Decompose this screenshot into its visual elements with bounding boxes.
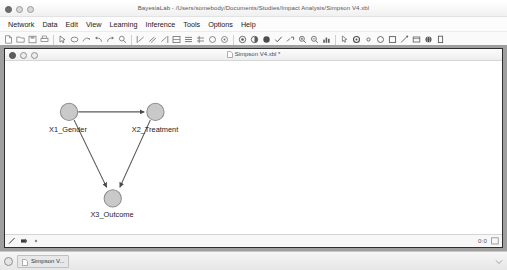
start-icon[interactable] xyxy=(4,257,13,266)
application-window: BayesiaLab - /Users/somebody/Documents/S… xyxy=(0,3,507,248)
menubar: Network Data Edit View Learning Inferenc… xyxy=(0,17,507,32)
undo-icon[interactable] xyxy=(93,34,104,45)
new-document-icon[interactable] xyxy=(3,34,14,45)
taskbar-item-simpson[interactable]: Simpson V... xyxy=(17,255,69,268)
document-title-wrap: Simpson V4.xbl * xyxy=(5,51,502,58)
edge-tool-icon[interactable] xyxy=(399,34,410,45)
toolbar-group-layout xyxy=(135,34,230,45)
application-title: BayesiaLab - /Users/somebody/Documents/S… xyxy=(0,5,507,11)
toolbar-separator xyxy=(233,35,234,45)
menu-item-edit[interactable]: Edit xyxy=(62,20,82,29)
globe-icon[interactable] xyxy=(423,34,434,45)
graph-canvas[interactable]: X1_Gender X2_Treatment X3_Outcome xyxy=(5,61,502,234)
open-folder-icon[interactable] xyxy=(15,34,26,45)
monitor-icon[interactable] xyxy=(249,34,260,45)
document-titlebar: Simpson V4.xbl * xyxy=(5,49,502,61)
toolbar-separator xyxy=(53,35,54,45)
open-circle-icon[interactable] xyxy=(375,34,386,45)
table-icon[interactable] xyxy=(411,34,422,45)
node-label-x2-treatment[interactable]: X2_Treatment xyxy=(132,125,179,134)
toolbar-separator xyxy=(335,35,336,45)
distribute-vertical-icon[interactable] xyxy=(183,34,194,45)
document-title: Simpson V4.xbl * xyxy=(235,51,281,57)
save-disk-icon[interactable] xyxy=(27,34,38,45)
arc-tool-icon[interactable] xyxy=(8,237,16,245)
menu-item-help[interactable]: Help xyxy=(237,20,260,29)
validate-check-icon[interactable] xyxy=(273,34,284,45)
node-label-x1-gender[interactable]: X1_Gender xyxy=(49,125,87,134)
menu-item-options[interactable]: Options xyxy=(204,20,237,29)
statusbar-right: 0:0 xyxy=(478,237,499,245)
select-arrow-icon[interactable] xyxy=(57,34,68,45)
menu-item-learning[interactable]: Learning xyxy=(105,20,141,29)
panel-icon[interactable] xyxy=(435,34,446,45)
screen-root: BayesiaLab - /Users/somebody/Documents/S… xyxy=(0,0,507,270)
toolbar-group-file xyxy=(3,34,50,45)
toolbar-separator xyxy=(131,35,132,45)
menu-item-view[interactable]: View xyxy=(82,20,105,29)
node-hit-x3-outcome[interactable] xyxy=(103,188,120,205)
document-statusbar: 0:0 xyxy=(5,234,502,247)
arc-arrow-icon[interactable] xyxy=(81,34,92,45)
system-tray xyxy=(495,252,503,270)
info-dot-icon[interactable] xyxy=(32,237,40,245)
menu-item-data[interactable]: Data xyxy=(38,20,61,29)
cursor-pointer-icon[interactable] xyxy=(339,34,350,45)
document-icon xyxy=(227,51,233,58)
link-icon[interactable] xyxy=(285,34,296,45)
mdi-area: Simpson V4.xbl * xyxy=(0,45,507,251)
print-icon[interactable] xyxy=(39,34,50,45)
tray-icon[interactable] xyxy=(495,252,503,270)
menu-item-tools[interactable]: Tools xyxy=(179,20,204,29)
node-ellipse-icon[interactable] xyxy=(69,34,80,45)
menu-item-inference[interactable]: Inference xyxy=(141,20,179,29)
statusbar-tools xyxy=(8,237,40,245)
filled-circle-icon[interactable] xyxy=(261,34,272,45)
distribute-horizontal-icon[interactable] xyxy=(171,34,182,45)
align-left-icon[interactable] xyxy=(135,34,146,45)
align-right-icon[interactable] xyxy=(159,34,170,45)
taskbar-item-label: Simpson V... xyxy=(31,258,64,264)
toolbar-group-edit xyxy=(57,34,128,45)
align-center-icon[interactable] xyxy=(147,34,158,45)
status-coordinates: 0:0 xyxy=(478,238,487,244)
node-hit-x2-treatment[interactable] xyxy=(145,103,162,120)
toolbar-group-nodes xyxy=(339,34,446,45)
taskbar: Simpson V... xyxy=(0,251,507,270)
magnify-minus-icon[interactable] xyxy=(309,34,320,45)
document-window: Simpson V4.xbl * xyxy=(4,48,503,248)
toolbar-group-analysis xyxy=(237,34,332,45)
application-titlebar: BayesiaLab - /Users/somebody/Documents/S… xyxy=(0,3,507,17)
radial-layout-icon[interactable] xyxy=(219,34,230,45)
menu-item-network[interactable]: Network xyxy=(4,20,38,29)
node-label-x3-outcome[interactable]: X3_Outcome xyxy=(90,210,133,219)
magnify-plus-icon[interactable] xyxy=(297,34,308,45)
search-icon[interactable] xyxy=(117,34,128,45)
node-hit-x1-gender[interactable] xyxy=(60,103,77,120)
chart-bars-icon[interactable] xyxy=(321,34,332,45)
target-icon[interactable] xyxy=(237,34,248,45)
grid-layout-icon[interactable] xyxy=(195,34,206,45)
small-circle-icon[interactable] xyxy=(363,34,374,45)
document-icon xyxy=(22,252,28,270)
square-node-icon[interactable] xyxy=(387,34,398,45)
redo-icon[interactable] xyxy=(105,34,116,45)
gear-icon[interactable] xyxy=(351,34,362,45)
resize-grip-icon[interactable] xyxy=(491,237,499,245)
bayesian-network-graph xyxy=(5,61,502,234)
node-tool-icon[interactable] xyxy=(20,237,28,245)
circle-layout-icon[interactable] xyxy=(207,34,218,45)
